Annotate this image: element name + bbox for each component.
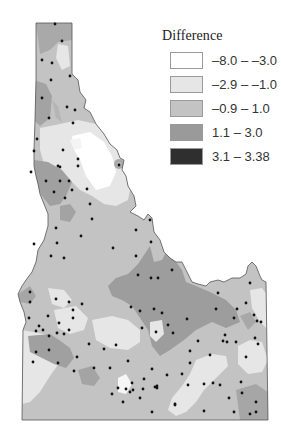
legend-swatch xyxy=(170,76,203,93)
legend-label: –0.9 – 1.0 xyxy=(212,101,270,116)
legend-item: –0.9 – 1.0 xyxy=(162,96,280,120)
legend-title: Difference xyxy=(162,28,280,44)
legend-swatch xyxy=(170,100,203,117)
legend-item: 3.1 – 3.38 xyxy=(162,144,280,168)
legend-swatch xyxy=(170,124,203,141)
legend-swatch xyxy=(170,148,203,165)
legend: Difference –8.0 – –3.0 –2.9 – –1.0 –0.9 … xyxy=(162,28,280,168)
legend-item: –8.0 – –3.0 xyxy=(162,48,280,72)
legend-label: –2.9 – –1.0 xyxy=(212,77,277,92)
legend-item: 1.1 – 3.0 xyxy=(162,120,280,144)
legend-swatch xyxy=(170,52,203,69)
legend-label: 3.1 – 3.38 xyxy=(212,149,270,164)
legend-item: –2.9 – –1.0 xyxy=(162,72,280,96)
legend-label: 1.1 – 3.0 xyxy=(212,125,263,140)
legend-label: –8.0 – –3.0 xyxy=(212,53,277,68)
